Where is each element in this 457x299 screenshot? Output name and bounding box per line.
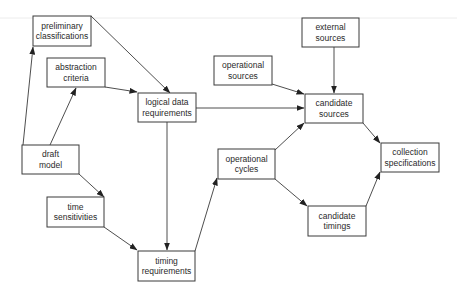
node-label-line: preliminary [41, 21, 83, 31]
edge-operational-cycles-to-candidate-sources [275, 123, 304, 150]
edge-operational-cycles-to-candidate-timings [275, 179, 307, 206]
node-label-line: timing [155, 256, 178, 266]
node-label-line: operational [222, 60, 264, 70]
node-collection-specifications: collectionspecifications [381, 143, 439, 172]
edge-draft-model-to-abstraction-criteria [50, 88, 76, 145]
edge-abstraction-criteria-to-logical-data-requirements [105, 87, 137, 92]
edge-draft-model-to-preliminary-classifications [23, 47, 33, 145]
node-label-line: time [67, 202, 83, 212]
edge-draft-model-to-time-sensitivities [79, 174, 104, 197]
node-label-line: sensitivities [54, 212, 97, 222]
node-label-line: sources [319, 109, 349, 119]
node-operational-sources: operationalsources [214, 56, 272, 85]
node-timing-requirements: timingrequirements [138, 251, 195, 281]
node-label-line: classifications [36, 31, 88, 41]
node-label-line: requirements [142, 108, 192, 118]
node-preliminary-classifications: preliminaryclassifications [33, 16, 91, 46]
node-label-line: collection [392, 147, 428, 157]
edge-timing-requirements-to-operational-cycles [195, 178, 217, 251]
node-label-line: sources [316, 33, 346, 43]
node-label-line: draft [42, 149, 60, 159]
node-external-sources: externalsources [302, 18, 359, 47]
node-label-line: model [39, 160, 62, 170]
node-label-line: candidate [316, 98, 353, 108]
node-label-line: external [315, 22, 345, 32]
node-label-line: sources [228, 71, 258, 81]
node-candidate-timings: candidatetimings [308, 206, 366, 236]
node-label-line: logical data [145, 97, 188, 107]
nodes: preliminaryclassificationsabstractioncri… [22, 16, 439, 281]
edge-time-sensitivities-to-timing-requirements [104, 227, 137, 250]
flow-diagram: preliminaryclassificationsabstractioncri… [0, 0, 457, 299]
node-label-line: criteria [63, 73, 89, 83]
node-label-line: specifications [384, 158, 435, 168]
node-draft-model: draftmodel [22, 145, 79, 174]
node-label-line: timings [324, 221, 351, 231]
edge-candidate-timings-to-collection-specifications [366, 172, 380, 206]
node-label-line: candidate [319, 211, 356, 221]
node-label-line: abstraction [55, 62, 97, 72]
node-candidate-sources: candidatesources [305, 94, 363, 123]
node-label-line: requirements [142, 266, 192, 276]
node-label-line: operational [225, 154, 267, 164]
node-logical-data-requirements: logical datarequirements [138, 93, 196, 122]
edge-candidate-sources-to-collection-specifications [363, 123, 380, 143]
node-label-line: cycles [235, 164, 259, 174]
node-time-sensitivities: timesensitivities [47, 197, 104, 227]
node-operational-cycles: operationalcycles [218, 149, 275, 179]
node-abstraction-criteria: abstractioncriteria [47, 58, 105, 87]
edge-operational-sources-to-candidate-sources [272, 84, 304, 94]
